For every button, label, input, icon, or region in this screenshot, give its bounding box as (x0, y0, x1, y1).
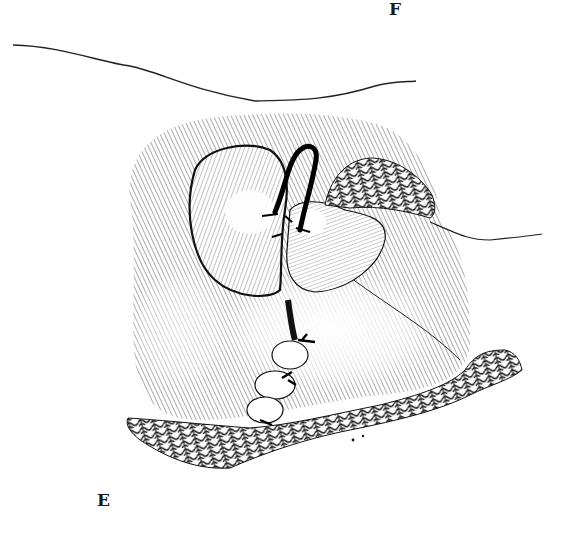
surgical-illustration (0, 0, 588, 552)
stray-marks (352, 435, 365, 442)
skin-contour-line (13, 45, 416, 101)
